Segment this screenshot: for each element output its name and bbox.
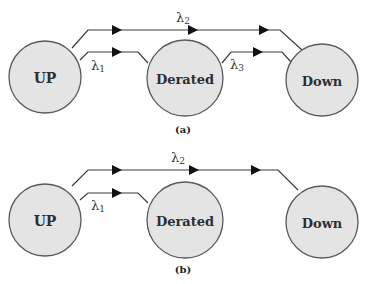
- arrowhead-icon: [112, 25, 122, 35]
- state-label: Down: [302, 74, 343, 89]
- arrowhead-icon: [251, 165, 261, 175]
- panel-a: λ2 λ1 λ3 UP Derated Down (a): [9, 10, 358, 135]
- arrowhead-icon: [188, 25, 198, 35]
- state-up: UP: [9, 41, 81, 113]
- panel-b: λ2 λ1 UP Derated Down (b): [9, 150, 358, 275]
- state-down: Down: [286, 186, 358, 258]
- transition-up-to-derated: λ1: [80, 47, 148, 74]
- arrowhead-icon: [259, 25, 269, 35]
- arrowhead-icon: [112, 165, 122, 175]
- arrowhead-icon: [112, 47, 122, 57]
- transition-up-to-derated: λ1: [80, 188, 148, 214]
- rate-label-lambda1: λ1: [91, 58, 105, 74]
- arrowhead-icon: [189, 165, 199, 175]
- state-down: Down: [286, 44, 358, 116]
- state-label: Derated: [156, 72, 214, 87]
- arrowhead-icon: [112, 188, 122, 198]
- state-derated: Derated: [147, 40, 223, 116]
- rate-label-lambda2: λ2: [176, 10, 190, 26]
- arrowhead-icon: [253, 47, 263, 57]
- rate-label-lambda2: λ2: [171, 150, 185, 166]
- state-label: UP: [34, 70, 57, 86]
- state-derated: Derated: [147, 182, 223, 258]
- state-label: Down: [302, 216, 343, 231]
- rate-label-lambda1: λ1: [91, 198, 105, 214]
- panel-caption: (a): [175, 124, 191, 135]
- rate-label-lambda3: λ3: [230, 57, 244, 73]
- state-up: UP: [9, 184, 81, 256]
- state-transition-diagram: λ2 λ1 λ3 UP Derated Down (a): [0, 0, 367, 284]
- panel-caption: (b): [175, 264, 191, 275]
- state-label: Derated: [156, 214, 214, 229]
- transition-derated-to-down: λ3: [222, 47, 291, 73]
- state-label: UP: [34, 213, 57, 229]
